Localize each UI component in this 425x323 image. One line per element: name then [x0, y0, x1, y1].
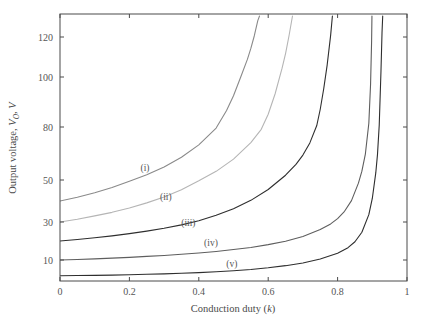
- x-tick-label: 1: [405, 286, 410, 297]
- curve-label-3: (iii): [181, 218, 195, 229]
- curve-4: [60, 16, 372, 260]
- y-tick-label: 10: [43, 255, 53, 266]
- x-tick-label: 0: [58, 286, 63, 297]
- curve-label-5: (v): [226, 259, 237, 270]
- curve-3: [60, 16, 332, 241]
- curve-label-4: (iv): [204, 238, 218, 249]
- y-axis-title: Output voltage, VO, V: [7, 101, 21, 194]
- y-tick-label: 50: [43, 175, 53, 186]
- curve-2: [60, 16, 292, 222]
- y-tick-labels: 10305080100120: [38, 32, 53, 266]
- chart-canvas: 00.20.40.60.81 10305080100120 (i)(ii)(ii…: [0, 0, 425, 323]
- curve-1: [60, 16, 260, 201]
- x-tick-label: 0.4: [193, 286, 206, 297]
- y-tick-label: 80: [43, 122, 53, 133]
- y-tick-label: 100: [38, 72, 53, 83]
- x-axis-title: Conduction duty (k): [191, 303, 276, 315]
- chart-figure: 00.20.40.60.81 10305080100120 (i)(ii)(ii…: [0, 0, 425, 323]
- curves-group: [60, 16, 383, 276]
- x-tick-label: 0.2: [123, 286, 136, 297]
- x-tick-label: 0.8: [331, 286, 344, 297]
- y-tick-label: 30: [43, 217, 53, 228]
- x-tick-labels: 00.20.40.60.81: [58, 286, 410, 297]
- x-tick-label: 0.6: [262, 286, 275, 297]
- curve-label-1: (i): [141, 163, 150, 174]
- y-tick-label: 120: [38, 32, 53, 43]
- curve-label-2: (ii): [160, 192, 172, 203]
